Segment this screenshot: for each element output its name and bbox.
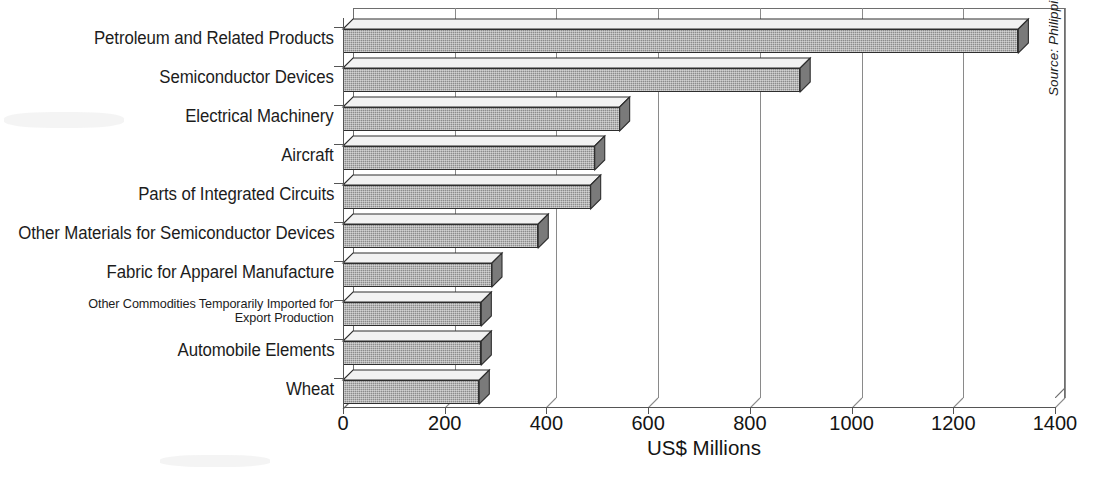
bar-front-face	[343, 29, 1018, 53]
x-tick-label: 200	[428, 412, 461, 435]
bar-front-face	[343, 68, 800, 92]
gridline	[1065, 8, 1066, 398]
category-label: Parts of Integrated Circuits	[138, 185, 334, 203]
y-tick-mark	[334, 66, 343, 67]
bar	[343, 370, 479, 394]
source-note: Source: Philippine Department of Trade a…	[1046, 0, 1061, 96]
category-label: Semiconductor Devices	[160, 68, 334, 86]
category-label: Other Commodities Temporarily Imported f…	[88, 297, 334, 327]
x-tick-label: 400	[530, 412, 563, 435]
y-tick-mark	[334, 105, 343, 106]
bar-front-face	[343, 341, 481, 365]
x-tick-label: 0	[337, 412, 348, 435]
bar-front-face	[343, 224, 538, 248]
bar	[343, 58, 800, 82]
category-label: Electrical Machinery	[186, 107, 334, 125]
category-label: Wheat	[286, 380, 334, 398]
value-axis-line	[343, 407, 1055, 408]
x-tick-label: 800	[733, 412, 766, 435]
category-label: Fabric for Apparel Manufacture	[106, 263, 334, 281]
y-tick-mark	[334, 144, 343, 145]
y-tick-mark	[334, 261, 343, 262]
bar	[343, 97, 620, 121]
gridline-depth-connector	[1055, 397, 1067, 409]
plot-area: 0200400600800100012001400	[343, 8, 1065, 408]
bar-front-face	[343, 263, 492, 287]
category-label: Other Materials for Semiconductor Device…	[18, 224, 334, 242]
x-tick-label: 600	[631, 412, 664, 435]
x-axis-title: US$ Millions	[343, 436, 1065, 460]
bar	[343, 136, 595, 160]
gridline	[963, 8, 964, 398]
bar-front-face	[343, 380, 479, 404]
x-tick-label: 1200	[931, 412, 976, 435]
x-tick-label: 1400	[1033, 412, 1078, 435]
category-label: Automobile Elements	[177, 341, 334, 359]
y-tick-mark	[334, 222, 343, 223]
bar	[343, 253, 492, 277]
category-axis-line	[343, 18, 344, 408]
bar-front-face	[343, 107, 620, 131]
gridline	[862, 8, 863, 398]
bar-chart: Petroleum and Related ProductsSemiconduc…	[0, 0, 1100, 479]
category-axis-labels: Petroleum and Related ProductsSemiconduc…	[0, 0, 338, 408]
bar-front-face	[343, 302, 481, 326]
y-tick-mark	[334, 378, 343, 379]
bar	[343, 214, 538, 238]
bar	[343, 292, 481, 316]
bar	[343, 175, 591, 199]
x-tick-label: 1000	[829, 412, 874, 435]
y-tick-mark	[334, 27, 343, 28]
bar	[343, 331, 481, 355]
category-label: Petroleum and Related Products	[94, 29, 334, 47]
bar	[343, 19, 1018, 43]
bar-front-face	[343, 146, 595, 170]
bar-front-face	[343, 185, 591, 209]
y-tick-mark	[334, 183, 343, 184]
y-tick-mark	[334, 339, 343, 340]
category-label: Aircraft	[282, 146, 334, 164]
y-tick-mark	[334, 300, 343, 301]
